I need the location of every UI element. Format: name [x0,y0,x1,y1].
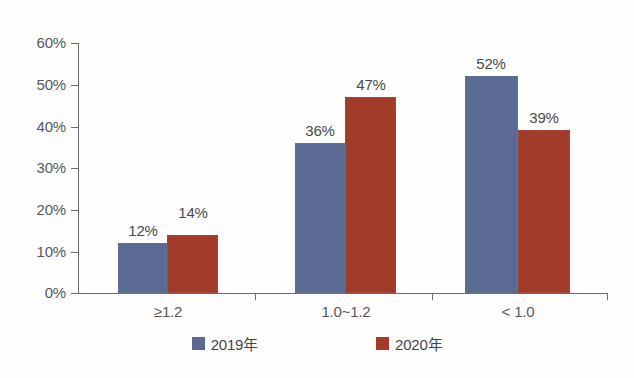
y-tick-30 [71,168,79,169]
x-axis-label-1.0-1.2: 1.0~1.2 [315,303,377,320]
y-tick-20 [71,210,79,211]
bar-2020-1.0-1.2 [345,97,396,293]
x-axis-line [78,293,608,294]
y-tick-60 [71,43,79,44]
bar-value-2019-lt1.0: 52% [461,55,521,72]
bar-2020-lt1.0 [518,130,570,293]
bar-2020-ge1.2 [167,235,218,293]
bar-value-2020-1.0-1.2: 47% [341,76,401,93]
bar-2019-ge1.2 [118,243,167,293]
x-axis-end-tick [607,293,608,300]
y-tick-10 [71,252,79,253]
chart-legend: 2019年 2020年 [0,333,634,354]
legend-label-2019: 2019年 [211,333,258,354]
y-axis-label-50: 50% [6,76,66,93]
bar-value-2020-lt1.0: 39% [514,109,574,126]
bar-2019-lt1.0 [465,76,518,293]
plot-area: 60% 50% 40% 30% 20% 10% 0% 12% 14% ≥1.2 … [0,0,634,378]
x-axis-label-lt1.0: < 1.0 [488,303,548,320]
y-axis-label-20: 20% [6,201,66,218]
y-tick-0 [71,293,79,294]
y-axis-label-60: 60% [6,34,66,51]
x-axis-label-ge1.2: ≥1.2 [138,303,198,320]
legend-item-2020[interactable]: 2020年 [376,333,442,354]
y-axis-label-40: 40% [6,118,66,135]
legend-swatch-icon-2020 [376,337,389,350]
bar-value-2019-1.0-1.2: 36% [290,122,350,139]
y-tick-50 [71,85,79,86]
legend-item-2019[interactable]: 2019年 [192,333,258,354]
y-axis-label-0: 0% [6,284,66,301]
grouped-bar-chart: 60% 50% 40% 30% 20% 10% 0% 12% 14% ≥1.2 … [0,0,634,378]
bar-value-2020-ge1.2: 14% [163,204,223,221]
legend-label-2020: 2020年 [395,333,442,354]
y-axis-label-10: 10% [6,243,66,260]
y-axis-label-30: 30% [6,159,66,176]
x-tick-1 [255,293,256,300]
y-tick-40 [71,127,79,128]
bar-value-2019-ge1.2: 12% [113,222,173,239]
legend-swatch-icon-2019 [192,337,205,350]
bar-2019-1.0-1.2 [295,143,345,293]
x-tick-2 [432,293,433,300]
